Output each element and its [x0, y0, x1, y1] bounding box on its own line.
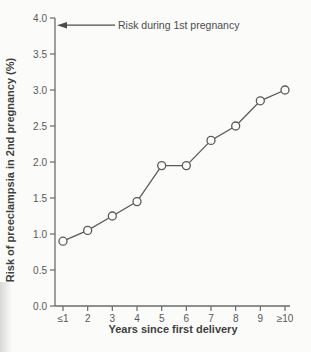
- data-line: [63, 90, 285, 241]
- chart-generated-layer: 0.00.51.01.52.02.53.03.54.0≤123456789≥10: [33, 13, 294, 325]
- y-tick-label: 4.0: [33, 13, 47, 24]
- x-axis-title: Years since first delivery: [108, 323, 238, 335]
- y-axis-title: Risk of preeclampsia in 2nd pregnancy (%…: [4, 57, 16, 282]
- preeclampsia-risk-line-chart: 0.00.51.01.52.02.53.03.54.0≤123456789≥10…: [0, 0, 311, 352]
- data-point-marker: [232, 122, 240, 130]
- data-point-marker: [108, 212, 116, 220]
- y-tick-label: 2.0: [33, 157, 47, 168]
- data-point-marker: [59, 237, 67, 245]
- x-tick-label: ≤1: [57, 313, 68, 324]
- y-tick-label: 3.0: [33, 85, 47, 96]
- y-tick-label: 3.5: [33, 49, 47, 60]
- annotation-arrow-icon: [57, 22, 115, 29]
- annotation-label: Risk during 1st pregnancy: [118, 19, 240, 31]
- data-point-marker: [84, 226, 92, 234]
- x-tick-label: ≥10: [277, 313, 294, 324]
- y-tick-label: 0.0: [33, 301, 47, 312]
- y-tick-label: 1.5: [33, 193, 47, 204]
- data-point-marker: [281, 86, 289, 94]
- x-tick-label: 9: [258, 313, 264, 324]
- data-point-marker: [133, 198, 141, 206]
- data-point-marker: [182, 162, 190, 170]
- y-tick-label: 0.5: [33, 265, 47, 276]
- data-point-marker: [207, 136, 215, 144]
- data-point-marker: [256, 97, 264, 105]
- y-tick-label: 2.5: [33, 121, 47, 132]
- data-point-marker: [158, 162, 166, 170]
- x-tick-label: 2: [85, 313, 91, 324]
- chart-canvas: 0.00.51.01.52.02.53.03.54.0≤123456789≥10…: [0, 0, 311, 352]
- y-tick-label: 1.0: [33, 229, 47, 240]
